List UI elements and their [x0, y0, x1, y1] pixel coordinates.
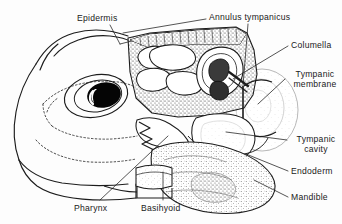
label-epidermis: Epidermis	[77, 13, 117, 23]
label-tympanic-cavity: Tympanic cavity	[290, 134, 342, 154]
label-tympanic-membrane: Tympanic membrane	[288, 69, 342, 89]
label-endoderm: Endoderm	[291, 166, 333, 176]
anatomy-figure: Epidermis Annulus tympanicus Columella T…	[0, 0, 342, 224]
label-columella: Columella	[291, 40, 331, 50]
frog-head-cross-section-illustration	[0, 0, 342, 224]
label-pharynx: Pharynx	[74, 203, 107, 213]
label-mandible: Mandible	[291, 192, 328, 202]
label-annulus-tympanicus: Annulus tympanicus	[209, 12, 290, 22]
label-basihyoid: Basihyoid	[141, 203, 181, 213]
